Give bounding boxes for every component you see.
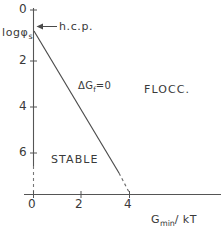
x-axis-title: Gmin/ kT	[151, 214, 197, 228]
x-axis-title-subscript: min	[160, 219, 175, 228]
x-axis-title-main: G	[151, 213, 160, 226]
x-tick-label-4: 4	[124, 198, 132, 210]
stable-region-label: STABLE	[51, 154, 99, 165]
phase-boundary-solid	[34, 31, 119, 173]
y-tick-label-2: 2	[19, 54, 27, 66]
hcp-arrow-head	[37, 24, 44, 30]
phase-boundary-label-delta: ΔG	[78, 80, 93, 91]
x-tick-label-2: 2	[75, 198, 83, 210]
y-axis-title-subscript: s	[28, 32, 32, 41]
phase-boundary-label: ΔGf=0	[78, 81, 111, 93]
hcp-annotation-label: h.c.p.	[59, 21, 93, 32]
y-axis-title-main: logφ	[2, 26, 28, 39]
x-axis-title-tail: / kT	[175, 213, 197, 226]
y-tick-label-6: 6	[19, 146, 27, 158]
y-tick-label-4: 4	[19, 100, 27, 112]
flocculated-region-label: FLOCC.	[144, 84, 190, 95]
phase-boundary-dashed	[119, 173, 130, 194]
y-tick-label-0: 0	[19, 3, 27, 15]
flocculation-phase-diagram: 0 2 4 6 0 2 4 logφs h.c.p. FLOCC. STABLE…	[0, 0, 221, 234]
x-tick-label-0: 0	[28, 198, 36, 210]
phase-boundary-label-tail: =0	[96, 80, 111, 91]
y-axis-title: logφs	[2, 27, 33, 41]
